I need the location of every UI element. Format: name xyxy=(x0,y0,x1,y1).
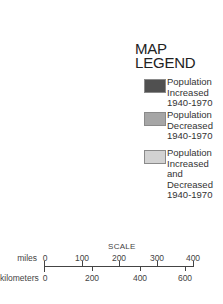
scale-title: SCALE xyxy=(108,242,136,251)
km-tick-label: 400 xyxy=(133,273,147,283)
km-tick-600 xyxy=(185,266,186,271)
swatch-dark-icon xyxy=(144,79,166,93)
scale-unit-kilometers: kilometers xyxy=(0,273,37,283)
scale-bar-line xyxy=(44,266,194,267)
miles-tick-200 xyxy=(119,261,120,266)
km-tick-label: 0 xyxy=(43,273,48,283)
scale-tick-start xyxy=(44,261,45,272)
scale-unit-miles: miles xyxy=(0,253,37,263)
miles-tick-300 xyxy=(157,261,158,266)
km-tick-200 xyxy=(92,266,93,271)
legend-item-label: Population Decreased 1940-1970 xyxy=(167,110,223,142)
legend-title: MAP LEGEND xyxy=(135,42,196,70)
km-tick-400 xyxy=(140,266,141,271)
legend-item-label: Population Increased and Decreased 1940-… xyxy=(167,148,223,201)
miles-tick-400 xyxy=(193,261,194,266)
legend-title-line2: LEGEND xyxy=(135,56,196,70)
swatch-medium-icon xyxy=(144,112,166,126)
km-tick-label: 600 xyxy=(178,273,192,283)
legend-item-label: Population Increased 1940-1970 xyxy=(167,77,223,109)
miles-tick-100 xyxy=(82,261,83,266)
km-tick-label: 200 xyxy=(85,273,99,283)
swatch-light-icon xyxy=(144,150,166,164)
